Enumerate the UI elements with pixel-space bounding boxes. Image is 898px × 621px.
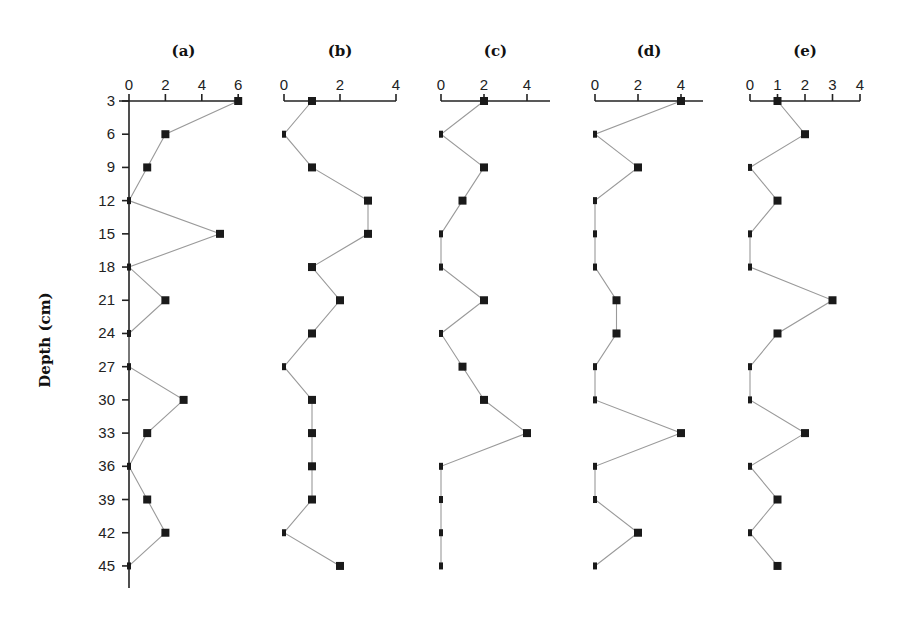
y-tick-label: 12 [98, 192, 115, 209]
data-point-marker [308, 496, 316, 504]
x-tick-label: 2 [801, 76, 809, 93]
data-point-marker [459, 197, 467, 205]
data-point-marker [593, 131, 597, 138]
data-point-marker [282, 363, 286, 370]
data-point-marker [774, 197, 782, 205]
data-point-marker [677, 97, 685, 105]
y-tick-label: 18 [98, 258, 115, 275]
data-point-marker [439, 230, 443, 237]
data-point-marker [143, 429, 151, 437]
data-point-marker [593, 396, 597, 403]
x-tick-label: 4 [856, 76, 864, 93]
data-point-marker [308, 263, 316, 271]
data-point-marker [748, 230, 752, 237]
data-point-marker [143, 496, 151, 504]
panel-a: (a)0246 [119, 42, 242, 569]
x-tick-label: 4 [198, 76, 206, 93]
data-point-marker [613, 329, 621, 337]
panel-title: (a) [172, 42, 196, 60]
panel-c: (c)024 [437, 42, 550, 569]
data-point-marker [439, 131, 443, 138]
data-point-marker [364, 230, 372, 238]
y-tick-label: 24 [98, 324, 115, 341]
data-point-marker [180, 396, 188, 404]
data-point-marker [439, 463, 443, 470]
data-point-marker [282, 131, 286, 138]
data-point-marker [127, 562, 131, 569]
x-tick-label: 0 [125, 76, 133, 93]
panel-d: (d)024 [591, 42, 703, 569]
data-point-marker [480, 396, 488, 404]
panel-title: (d) [637, 42, 662, 60]
data-point-marker [308, 329, 316, 337]
x-tick-label: 3 [828, 76, 836, 93]
x-tick-label: 2 [634, 76, 642, 93]
data-point-marker [774, 496, 782, 504]
y-tick-label: 6 [107, 125, 115, 142]
x-tick-label: 1 [773, 76, 781, 93]
data-point-marker [593, 562, 597, 569]
data-point-marker [748, 396, 752, 403]
data-point-marker [748, 264, 752, 271]
y-tick-label: 30 [98, 391, 115, 408]
data-point-marker [774, 562, 782, 570]
x-tick-label: 4 [523, 76, 531, 93]
x-tick-label: 4 [677, 76, 685, 93]
series-line [750, 101, 833, 566]
data-point-marker [439, 496, 443, 503]
data-point-marker [748, 363, 752, 370]
data-point-marker [234, 97, 242, 105]
y-tick-label: 45 [98, 557, 115, 574]
data-point-marker [308, 163, 316, 171]
data-point-marker [308, 97, 316, 105]
data-point-marker [364, 197, 372, 205]
data-point-marker [439, 529, 443, 536]
data-point-marker [613, 296, 621, 304]
x-tick-label: 0 [591, 76, 599, 93]
data-point-marker [593, 230, 597, 237]
x-tick-label: 2 [336, 76, 344, 93]
data-point-marker [523, 429, 531, 437]
data-point-marker [439, 330, 443, 337]
data-point-marker [127, 264, 131, 271]
panel-b: (b)024 [280, 42, 400, 570]
data-point-marker [459, 363, 467, 371]
data-point-marker [161, 296, 169, 304]
y-tick-label: 33 [98, 424, 115, 441]
data-point-marker [748, 463, 752, 470]
data-point-marker [593, 463, 597, 470]
y-tick-label: 27 [98, 358, 115, 375]
data-point-marker [774, 97, 782, 105]
data-point-marker [336, 562, 344, 570]
x-tick-label: 0 [280, 76, 288, 93]
y-axis-label: Depth (cm) [36, 292, 54, 387]
x-tick-label: 0 [437, 76, 445, 93]
y-tick-label: 9 [107, 158, 115, 175]
data-point-marker [801, 130, 809, 138]
data-point-marker [439, 562, 443, 569]
x-tick-label: 0 [746, 76, 754, 93]
data-point-marker [634, 529, 642, 537]
y-tick-label: 36 [98, 457, 115, 474]
series-line [284, 101, 368, 566]
shared-depth-axis: 369121518212427303336394245 [98, 92, 129, 588]
data-point-marker [161, 130, 169, 138]
data-point-marker [801, 429, 809, 437]
y-tick-label: 42 [98, 524, 115, 541]
data-point-marker [308, 396, 316, 404]
data-point-marker [480, 163, 488, 171]
data-point-marker [774, 329, 782, 337]
x-tick-label: 2 [480, 76, 488, 93]
data-point-marker [593, 264, 597, 271]
data-point-marker [480, 296, 488, 304]
data-point-marker [829, 296, 837, 304]
data-point-marker [216, 230, 224, 238]
x-tick-label: 2 [161, 76, 169, 93]
y-tick-label: 15 [98, 225, 115, 242]
depth-profile-chart: 369121518212427303336394245 Depth (cm) (… [0, 0, 898, 621]
data-point-marker [127, 197, 131, 204]
x-tick-label: 6 [234, 76, 242, 93]
data-point-marker [336, 296, 344, 304]
data-point-marker [593, 496, 597, 503]
y-tick-label: 39 [98, 491, 115, 508]
